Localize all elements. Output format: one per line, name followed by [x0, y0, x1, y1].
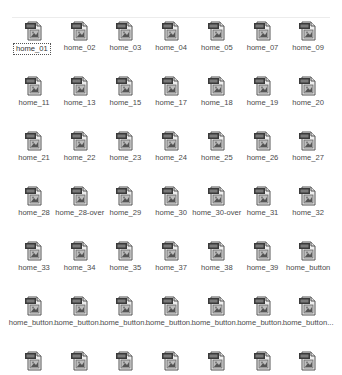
image-file-icon: [298, 74, 318, 96]
image-file-icon: [70, 129, 90, 151]
image-file-icon: [207, 349, 227, 371]
image-file-icon: [207, 294, 227, 316]
file-item[interactable]: [193, 347, 241, 375]
image-file-icon: [24, 184, 44, 206]
image-file-icon: [24, 239, 44, 261]
image-file-icon: [115, 184, 135, 206]
image-file-icon: [161, 74, 181, 96]
file-name: home_button: [278, 263, 338, 273]
file-name: home_20: [278, 98, 338, 108]
image-file-icon: [115, 349, 135, 371]
file-item[interactable]: home_27: [284, 127, 332, 179]
image-file-icon: [298, 239, 318, 261]
image-file-icon: [70, 239, 90, 261]
image-file-icon: [24, 74, 44, 96]
image-file-icon: [115, 19, 135, 41]
image-file-icon: [115, 239, 135, 261]
file-name: home_button...: [278, 318, 338, 328]
file-item[interactable]: [239, 347, 287, 375]
file-item[interactable]: [147, 347, 195, 375]
file-item[interactable]: home_button...: [284, 292, 332, 344]
image-file-icon: [161, 129, 181, 151]
image-file-icon: [70, 74, 90, 96]
image-file-icon: [207, 239, 227, 261]
image-file-icon: [253, 294, 273, 316]
image-file-icon: [207, 129, 227, 151]
image-file-icon: [161, 239, 181, 261]
image-file-icon: [253, 184, 273, 206]
image-file-icon: [253, 349, 273, 371]
image-file-icon: [253, 74, 273, 96]
image-file-icon: [207, 74, 227, 96]
file-name: home_27: [278, 153, 338, 163]
file-item[interactable]: [10, 347, 58, 375]
image-file-icon: [70, 19, 90, 41]
image-file-icon: [115, 294, 135, 316]
file-item[interactable]: home_20: [284, 72, 332, 124]
image-file-icon: [115, 129, 135, 151]
image-file-icon: [24, 349, 44, 371]
image-file-icon: [161, 19, 181, 41]
image-file-icon: [207, 184, 227, 206]
image-file-icon: [298, 294, 318, 316]
file-item[interactable]: home_09: [284, 17, 332, 69]
file-item[interactable]: [56, 347, 104, 375]
file-name: home_09: [278, 43, 338, 53]
image-file-icon: [253, 129, 273, 151]
file-item[interactable]: home_button: [284, 237, 332, 289]
image-file-icon: [24, 294, 44, 316]
image-file-icon: [24, 19, 44, 41]
image-file-icon: [24, 129, 44, 151]
image-file-icon: [70, 184, 90, 206]
image-file-icon: [115, 74, 135, 96]
image-file-icon: [298, 129, 318, 151]
image-file-icon: [207, 19, 227, 41]
image-file-icon: [70, 349, 90, 371]
image-file-icon: [298, 349, 318, 371]
image-file-icon: [70, 294, 90, 316]
image-file-icon: [253, 19, 273, 41]
file-name: home_32: [278, 208, 338, 218]
file-name: home_01: [13, 43, 51, 55]
image-file-icon: [298, 184, 318, 206]
file-item[interactable]: [284, 347, 332, 375]
file-item[interactable]: home_32: [284, 182, 332, 234]
image-file-icon: [161, 184, 181, 206]
image-file-icon: [298, 19, 318, 41]
image-file-icon: [253, 239, 273, 261]
image-file-icon: [161, 294, 181, 316]
image-file-icon: [161, 349, 181, 371]
file-item[interactable]: [101, 347, 149, 375]
